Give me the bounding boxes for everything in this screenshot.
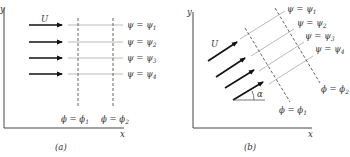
potential-label-1-b: ϕ = ϕ1 bbox=[279, 105, 307, 116]
streamline-label-2-a: ψ = ψ2 bbox=[127, 37, 157, 48]
caption-a: (a) bbox=[55, 142, 67, 152]
velocity-arrow-icon bbox=[216, 58, 245, 77]
streamline-1-b bbox=[240, 11, 285, 39]
y-axis-label-b: y bbox=[186, 7, 192, 17]
streamline-label-4-b: ψ = ψ4 bbox=[315, 44, 345, 55]
potential-label-2-b: ϕ = ϕ2 bbox=[321, 84, 349, 95]
streamline-label-3-a: ψ = ψ3 bbox=[127, 53, 157, 64]
potential-line-1-b bbox=[245, 28, 290, 102]
figure-a: y x U ψ = ψ1 ψ = ψ2 ψ = ψ3 ψ = ψ4 ϕ = ϕ1… bbox=[0, 4, 157, 152]
angle-label: α bbox=[257, 89, 263, 99]
axes-a bbox=[4, 8, 124, 128]
streamline-label-2-b: ψ = ψ2 bbox=[297, 18, 327, 29]
streamline-label-4-a: ψ = ψ4 bbox=[127, 69, 157, 80]
potential-label-1-a: ϕ = ϕ1 bbox=[61, 114, 89, 125]
caption-b: (b) bbox=[244, 142, 256, 152]
x-axis-label-b: x bbox=[308, 129, 313, 139]
y-axis-label-a: y bbox=[0, 4, 5, 14]
streamline-label-3-b: ψ = ψ3 bbox=[305, 31, 335, 42]
angle-arc-icon bbox=[252, 91, 254, 100]
velocity-arrow-icon bbox=[225, 70, 254, 88]
figure-b: y x α U ψ = ψ1 ψ = ψ2 ψ = ψ3 ψ = ψ4 ϕ = … bbox=[186, 4, 349, 152]
x-axis-label-a: x bbox=[120, 129, 125, 139]
streamline-label-1-b: ψ = ψ1 bbox=[287, 4, 317, 15]
potential-label-2-a: ϕ = ϕ2 bbox=[101, 114, 129, 125]
streamline-label-1-a: ψ = ψ1 bbox=[127, 20, 157, 31]
streamline-2-b bbox=[251, 29, 294, 56]
velocity-label-a: U bbox=[41, 14, 49, 24]
velocity-label-b: U bbox=[211, 39, 219, 49]
